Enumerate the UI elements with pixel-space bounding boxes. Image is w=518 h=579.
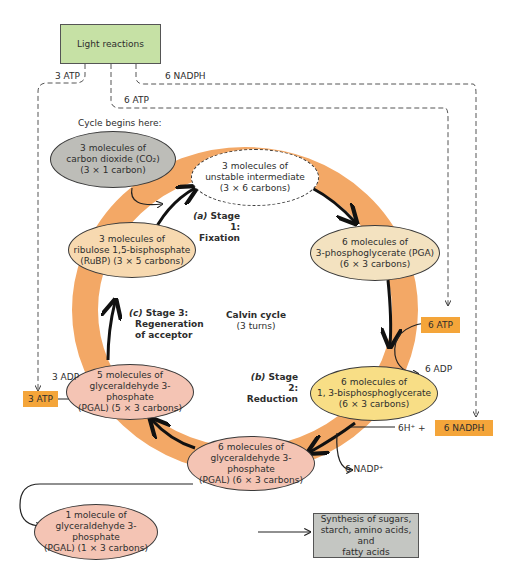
stage-2-desc: Reduction [238, 394, 298, 405]
stage-1-prefix: (a) [193, 211, 207, 221]
tag-3-atp: 3 ATP [23, 391, 58, 407]
co2-line3: (3 × 1 carbon) [66, 165, 159, 176]
stage-3-prefix: (c) [129, 308, 143, 318]
tag-6-atp: 6 ATP [421, 317, 460, 333]
stage-3-desc1: Regeneration [129, 319, 204, 330]
co2-line1: 3 molecules of [66, 143, 159, 154]
bpg-line1: 6 molecules of [317, 377, 431, 388]
cycle-center-title: Calvin cycle (3 turns) [226, 310, 286, 332]
calvin-cycle-diagram: Light reactions 3 ATP 6 NADPH 6 ATP Cycl… [0, 0, 518, 579]
input-6-atp-label: 6 ATP [124, 95, 149, 106]
synthesis-line1: Synthesis of sugars, [314, 514, 418, 525]
stage-3-desc2: of acceptor [129, 330, 204, 341]
pga-line3: (6 × 3 carbons) [316, 259, 434, 270]
stage-2-name: Stage 2: [269, 372, 298, 393]
pgal6-line2: glyceraldehyde 3-phosphate [188, 453, 314, 475]
pga-node: 6 molecules of 3-phosphoglycerate (PGA) … [310, 225, 440, 281]
input-3-atp-label: 3 ATP [55, 71, 80, 82]
synthesis-line2: starch, amino acids, and [314, 525, 418, 547]
pga-line1: 6 molecules of [316, 237, 434, 248]
pgal5-line2: glyceraldehyde 3-phosphate [67, 381, 193, 403]
stage-1-name: Stage 1: [211, 211, 240, 232]
light-reactions-box: Light reactions [60, 24, 161, 64]
bisphosphoglycerate-node: 6 molecules of 1, 3-bisphosphoglycerate … [310, 366, 438, 421]
pgal-6-node: 6 molecules of glyceraldehyde 3-phosphat… [187, 436, 315, 491]
stage-1-label: (a) Stage 1: Fixation [185, 211, 240, 244]
stage-1-desc: Fixation [185, 233, 240, 244]
pgal5-line3: (PGAL) (5 × 3 carbons) [67, 403, 193, 414]
tag-6-nadph: 6 NADPH [435, 420, 493, 436]
byproduct-6-nadp: 6 NADP⁺ [345, 464, 384, 475]
synthesis-box: Synthesis of sugars, starch, amino acids… [313, 513, 419, 558]
bpg-line3: (6 × 3 carbons) [317, 399, 431, 410]
unstable-line2: unstable intermediate [205, 172, 305, 183]
input-6-nadph-label: 6 NADPH [165, 71, 206, 82]
pgal5-line1: 5 molecules of [67, 370, 193, 381]
light-reactions-label: Light reactions [77, 39, 144, 50]
stage-2-label: (b) Stage 2: Reduction [238, 372, 298, 405]
cycle-subtitle: (3 turns) [226, 321, 286, 332]
stage-2-prefix: (b) [251, 372, 266, 382]
pgal6-line1: 6 molecules of [188, 442, 314, 453]
byproduct-6-adp: 6 ADP [425, 364, 452, 375]
input-6h-plus: 6H⁺ + [398, 423, 426, 434]
pgal1-line3: (PGAL) (1 × 3 carbons) [35, 543, 157, 554]
rubp-node: 3 molecules of ribulose 1,5-bisphosphate… [68, 222, 196, 278]
rubp-line2: ribulose 1,5-bisphosphate [74, 245, 191, 256]
cycle-title: Calvin cycle [226, 310, 286, 321]
synthesis-line3: fatty acids [314, 547, 418, 558]
bpg-line2: 1, 3-bisphosphoglycerate [317, 388, 431, 399]
stage-3-label: (c) Stage 3: Regeneration of acceptor [129, 308, 204, 341]
pgal-1-node: 1 molecule of glyceraldehyde 3-phosphate… [34, 504, 158, 560]
rubp-line3: (RuBP) (3 × 5 carbons) [74, 256, 191, 267]
stage-3-name: Stage 3: [146, 308, 188, 318]
unstable-line1: 3 molecules of [205, 161, 305, 172]
byproduct-3-adp: 3 ADP [52, 372, 79, 383]
diagram-connectors [0, 0, 518, 579]
pgal1-line2: glyceraldehyde 3-phosphate [35, 521, 157, 543]
pgal6-line3: (PGAL) (6 × 3 carbons) [188, 475, 314, 486]
pgal-5-node: 5 molecules of glyceraldehyde 3-phosphat… [66, 364, 194, 420]
unstable-intermediate-node: 3 molecules of unstable intermediate (3 … [191, 149, 319, 206]
unstable-line3: (3 × 6 carbons) [205, 183, 305, 194]
co2-line2: carbon dioxide (CO₂) [66, 154, 159, 165]
cycle-begins-label: Cycle begins here: [78, 118, 162, 129]
pga-line2: 3-phosphoglycerate (PGA) [316, 248, 434, 259]
pgal1-line1: 1 molecule of [35, 510, 157, 521]
rubp-line1: 3 molecules of [74, 234, 191, 245]
co2-node: 3 molecules of carbon dioxide (CO₂) (3 ×… [50, 131, 176, 188]
